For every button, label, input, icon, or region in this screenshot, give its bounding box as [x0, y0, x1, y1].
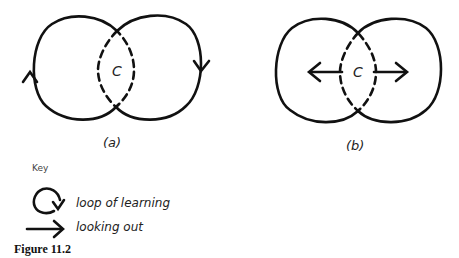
- key-label-looking-out: looking out: [76, 220, 144, 234]
- key-title: Key: [32, 163, 48, 173]
- figure-caption: Figure 11.2: [14, 242, 71, 257]
- loop-arrow-icon: [34, 188, 64, 213]
- arrow-left-icon: [309, 63, 342, 81]
- figure-canvas: C (a) C (b) loop of learning looking out: [0, 0, 459, 258]
- key-label-loop-of-learning: loop of learning: [76, 196, 170, 210]
- diagram-b-label: (b): [346, 138, 364, 153]
- center-label-b: C: [353, 64, 363, 80]
- diagram-a-label: (a): [103, 135, 121, 150]
- straight-arrow-icon: [27, 221, 63, 237]
- arrow-right-icon: [374, 63, 407, 81]
- center-label-a: C: [112, 63, 122, 79]
